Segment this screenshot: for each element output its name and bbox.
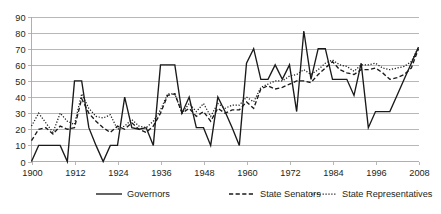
series-line-state-representatives (32, 47, 419, 132)
legend-label-state-representatives: State Representatives (342, 189, 433, 199)
series-line-governors (32, 31, 419, 162)
x-tick-label-1972: 1972 (280, 168, 300, 178)
x-tick-label-1924: 1924 (108, 168, 128, 178)
x-tick-label-1996: 1996 (366, 168, 386, 178)
y-tick-label-80: 80 (15, 29, 25, 39)
x-axis-tick-labels: 1900191219241936194819601972198419962008 (22, 168, 429, 178)
y-tick-label-30: 30 (15, 109, 25, 119)
x-tick-label-1960: 1960 (237, 168, 257, 178)
chart-canvas: 0102030405060708090 19001912192419361948… (0, 0, 441, 214)
y-tick-label-10: 10 (15, 141, 25, 151)
axis-ticks (28, 18, 420, 166)
x-tick-label-1948: 1948 (194, 168, 214, 178)
data-series (32, 31, 419, 162)
legend-label-governors: Governors (127, 189, 170, 199)
x-tick-label-2008: 2008 (409, 168, 429, 178)
y-tick-label-50: 50 (15, 77, 25, 87)
y-tick-label-20: 20 (15, 125, 25, 135)
y-tick-label-70: 70 (15, 45, 25, 55)
chart-legend: GovernorsState SenatorsState Representat… (96, 189, 433, 199)
x-tick-label-1912: 1912 (65, 168, 85, 178)
y-tick-label-40: 40 (15, 93, 25, 103)
x-tick-label-1984: 1984 (323, 168, 343, 178)
line-chart: 0102030405060708090 19001912192419361948… (0, 0, 441, 214)
y-tick-label-90: 90 (15, 13, 25, 23)
x-tick-label-1936: 1936 (151, 168, 171, 178)
y-tick-label-0: 0 (20, 158, 25, 168)
y-tick-label-60: 60 (15, 61, 25, 71)
x-tick-label-1900: 1900 (22, 168, 42, 178)
y-axis-tick-labels: 0102030405060708090 (15, 13, 25, 168)
series-line-state-senators (32, 49, 419, 141)
gridlines (32, 18, 419, 146)
